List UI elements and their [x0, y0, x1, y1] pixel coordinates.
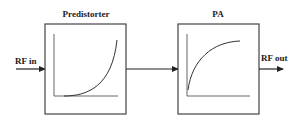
block-diagram: [0, 0, 304, 121]
predistorter-block: [45, 24, 126, 114]
rf-in-label: RF in: [15, 57, 36, 66]
rf-out-label: RF out: [261, 54, 287, 63]
pa-title: PA: [212, 10, 223, 19]
pa-block: [178, 24, 259, 114]
predistorter-title: Predistorter: [63, 10, 110, 19]
